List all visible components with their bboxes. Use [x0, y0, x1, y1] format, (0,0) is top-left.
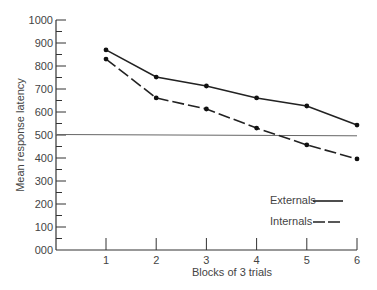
y-axis-title: Mean response latency — [14, 78, 26, 192]
y-tick-label: 100 — [35, 221, 53, 233]
y-tick-label: 200 — [35, 198, 53, 210]
data-point-internals — [104, 57, 109, 62]
legend-label-internals: Internals — [270, 215, 313, 227]
y-tick-label: 1000 — [29, 14, 53, 26]
x-tick-label: 5 — [304, 254, 310, 266]
data-point-externals — [304, 104, 309, 109]
y-tick-label: 900 — [35, 37, 53, 49]
data-point-externals — [154, 75, 159, 80]
y-tick-label: 000 — [35, 244, 53, 256]
data-point-internals — [254, 126, 259, 131]
legend: Externals Internals — [270, 194, 343, 227]
data-point-externals — [355, 123, 360, 128]
line-chart: 0001002003004005006007008009001000 12345… — [0, 0, 377, 290]
data-point-internals — [204, 107, 209, 112]
y-tick-label: 600 — [35, 106, 53, 118]
data-point-externals — [104, 48, 109, 53]
series-line-externals — [106, 50, 357, 125]
y-tick-label: 700 — [35, 83, 53, 95]
data-point-internals — [304, 142, 309, 147]
x-tick-label: 6 — [354, 254, 360, 266]
data-point-internals — [154, 96, 159, 101]
x-tick-label: 2 — [153, 254, 159, 266]
data-point-externals — [254, 96, 259, 101]
x-tick-label: 4 — [254, 254, 260, 266]
x-tick-label: 1 — [103, 254, 109, 266]
legend-label-externals: Externals — [270, 194, 316, 206]
data-point-internals — [355, 157, 360, 162]
series-group — [104, 48, 360, 162]
reference-line — [56, 135, 357, 136]
series-line-internals — [106, 59, 357, 159]
y-tick-label: 800 — [35, 60, 53, 72]
x-axis-title: Blocks of 3 trials — [192, 266, 273, 278]
y-tick-label: 400 — [35, 152, 53, 164]
x-tick-label: 3 — [203, 254, 209, 266]
data-point-externals — [204, 84, 209, 89]
y-tick-label: 500 — [35, 129, 53, 141]
reference-line-500 — [56, 135, 357, 136]
x-axis: 123456 — [56, 238, 360, 266]
y-tick-label: 300 — [35, 175, 53, 187]
